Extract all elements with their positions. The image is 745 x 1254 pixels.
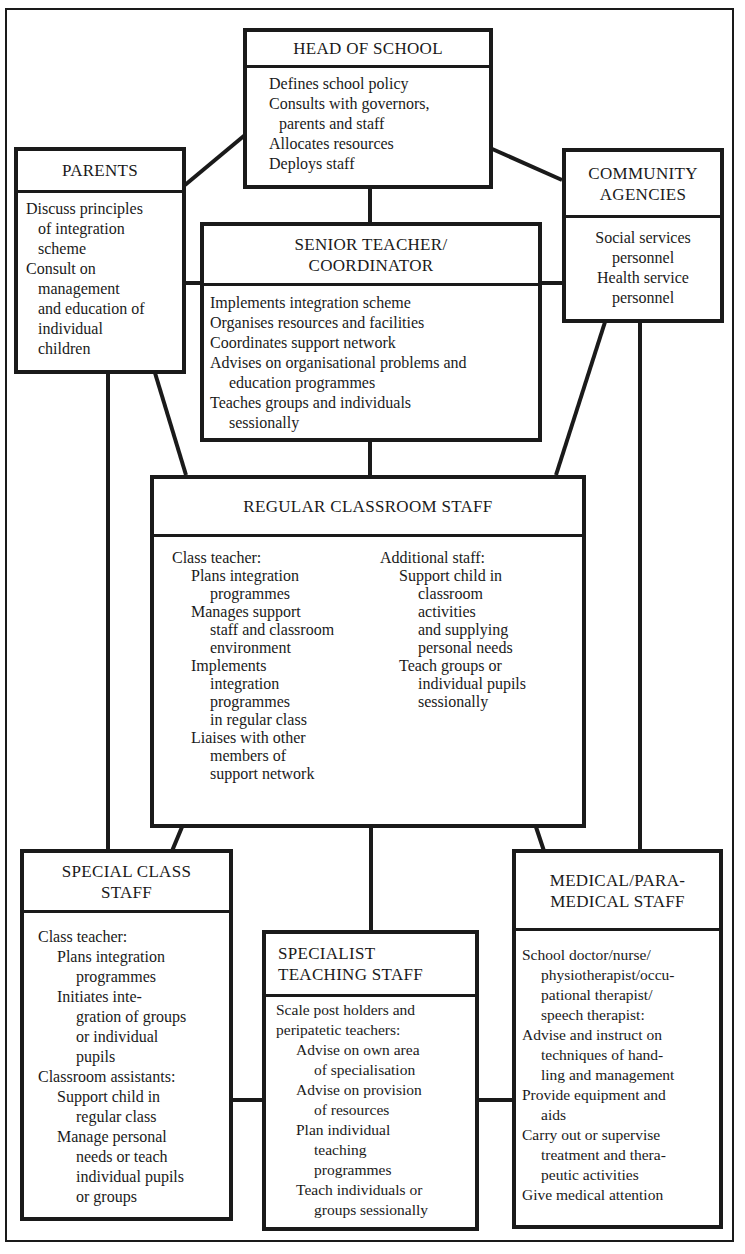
class-teacher-column: Class teacher: Plans integration program… [168,549,360,783]
medical-staff-box: MEDICAL/PARA- MEDICAL STAFF School docto… [512,849,723,1229]
duty-line: treatment and thera- [522,1145,719,1165]
senior-teacher-title: SENIOR TEACHER/ COORDINATOR [204,226,538,286]
duty-line: sessionally [380,693,568,711]
duty-line: integration [172,675,360,693]
parents-duties: Discuss principles of integration scheme… [18,193,182,359]
parents-title: PARENTS [18,151,182,193]
duty-line: Coordinates support network [210,333,538,353]
duty-line: programmes [172,693,360,711]
duty-line: Teach individuals or [276,1180,475,1200]
duty-line: peripatetic teachers: [276,1020,475,1040]
specialist-teaching-staff-duties: Scale post holders and peripatetic teach… [266,997,475,1220]
duty-line: Teaches groups and individuals [210,393,538,413]
member-line: personnel [566,288,720,308]
duty-line: gration of groups [38,1007,229,1027]
duty-line: Support child in [380,567,568,585]
duty-line: scheme [26,239,182,259]
duty-line: pupils [38,1047,229,1067]
head-of-school-title: HEAD OF SCHOOL [247,32,489,68]
duty-line: sessionally [210,413,538,433]
special-class-staff-duties: Class teacher: Plans integration program… [24,913,229,1207]
link-regular-medical [536,827,544,851]
link-regular-special [172,827,182,851]
duty-line: Class teacher: [38,927,229,947]
duty-line: in regular class [172,711,360,729]
additional-staff-column: Additional staff: Support child in class… [360,549,568,783]
regular-classroom-staff-box: REGULAR CLASSROOM STAFF Class teacher: P… [150,475,586,828]
duty-line: of integration [26,219,182,239]
duty-line: support network [172,765,360,783]
duty-line: groups sessionally [276,1200,475,1220]
duty-line: techniques of hand- [522,1045,719,1065]
duty-line: Advise on provision [276,1080,475,1100]
duty-line: individual pupils [380,675,568,693]
duty-line: personal needs [380,639,568,657]
duty-line: of resources [276,1100,475,1120]
duty-line: regular class [38,1107,229,1127]
duty-line: children [26,339,182,359]
medical-staff-title: MEDICAL/PARA- MEDICAL STAFF [516,853,719,931]
duty-line: Scale post holders and [276,1000,475,1020]
duty-line: Allocates resources [269,134,489,154]
regular-classroom-staff-columns: Class teacher: Plans integration program… [154,537,582,783]
duty-line: peutic activities [522,1165,719,1185]
duty-line: Liaises with other [172,729,360,747]
duty-line: individual [26,319,182,339]
duty-line: Give medical attention [522,1185,719,1205]
regular-classroom-staff-title: REGULAR CLASSROOM STAFF [154,479,582,537]
duty-line: programmes [276,1160,475,1180]
special-class-staff-title: SPECIAL CLASS STAFF [24,853,229,913]
duty-line: of specialisation [276,1060,475,1080]
duty-line: Implements integration scheme [210,293,538,313]
head-of-school-box: HEAD OF SCHOOL Defines school policy Con… [243,28,493,189]
duty-line: Plans integration [172,567,360,585]
specialist-teaching-staff-box: SPECIALIST TEACHING STAFF Scale post hol… [262,930,479,1231]
duty-line: activities [380,603,568,621]
duty-line: Organises resources and facilities [210,313,538,333]
duty-line: physiotherapist/occu- [522,965,719,985]
community-agencies-title: COMMUNITY AGENCIES [566,152,720,218]
duty-line: Discuss principles [26,199,182,219]
duty-line: parents and staff [269,114,489,134]
duty-line: Teach groups or [380,657,568,675]
duty-line: and education of [26,299,182,319]
duty-line: pational therapist/ [522,985,719,1005]
senior-teacher-box: SENIOR TEACHER/ COORDINATOR Implements i… [200,222,542,442]
parents-box: PARENTS Discuss principles of integratio… [14,147,186,374]
duty-line: teaching [276,1140,475,1160]
duty-line: Advise on own area [276,1040,475,1060]
duty-line: aids [522,1105,719,1125]
duty-line: individual pupils [38,1167,229,1187]
link-head-community [490,148,562,180]
duty-line: Consults with governors, [269,94,489,114]
duty-line: Advises on organisational problems and [210,353,538,373]
duty-line: speech therapist: [522,1005,719,1025]
duty-line: management [26,279,182,299]
duty-line: Deploys staff [269,154,489,174]
community-agencies-box: COMMUNITY AGENCIES Social services perso… [562,148,724,323]
duty-line: staff and classroom [172,621,360,639]
duty-line: needs or teach [38,1147,229,1167]
duty-line: Advise and instruct on [522,1025,719,1045]
link-parents-regular [155,373,186,475]
duty-line: Plan individual [276,1120,475,1140]
special-class-staff-box: SPECIAL CLASS STAFF Class teacher: Plans… [20,849,233,1221]
duty-line: Carry out or supervise [522,1125,719,1145]
duty-line: or groups [38,1187,229,1207]
member-line: personnel [566,248,720,268]
link-head-parents [185,135,245,185]
member-line: Health service [566,268,720,288]
duty-line: Initiates inte- [38,987,229,1007]
duty-line: classroom [380,585,568,603]
duty-line: Classroom assistants: [38,1067,229,1087]
specialist-teaching-staff-title: SPECIALIST TEACHING STAFF [266,934,475,997]
duty-line: Provide equipment and [522,1085,719,1105]
duty-line: Additional staff: [380,549,568,567]
duty-line: members of [172,747,360,765]
duty-line: ling and management [522,1065,719,1085]
head-of-school-duties: Defines school policy Consults with gove… [247,68,489,174]
duty-line: programmes [172,585,360,603]
duty-line: Implements [172,657,360,675]
duty-line: Support child in [38,1087,229,1107]
duty-line: Manage personal [38,1127,229,1147]
